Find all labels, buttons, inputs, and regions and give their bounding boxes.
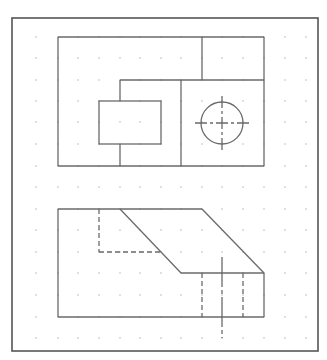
grid-dot xyxy=(35,79,37,81)
grid-dot xyxy=(35,36,37,38)
visible-edge-line xyxy=(202,209,264,273)
grid-dot xyxy=(305,100,307,102)
grid-dot xyxy=(98,337,100,339)
grid-dot xyxy=(284,337,286,339)
grid-dot xyxy=(201,229,203,231)
grid-dot xyxy=(77,272,79,274)
grid-dot xyxy=(119,272,121,274)
grid-dot xyxy=(77,143,79,145)
grid-dot xyxy=(139,294,141,296)
grid-dot xyxy=(180,57,182,59)
grid-dot xyxy=(35,251,37,253)
grid-dot xyxy=(305,251,307,253)
grid-dot xyxy=(35,143,37,145)
grid-dot xyxy=(305,316,307,318)
grid-dot xyxy=(35,186,37,188)
grid-dot xyxy=(139,57,141,59)
grid-dot xyxy=(305,229,307,231)
grid-dot xyxy=(284,143,286,145)
grid-dot xyxy=(35,316,37,318)
grid-dot xyxy=(305,186,307,188)
grid-dot xyxy=(160,57,162,59)
grid-dot xyxy=(305,272,307,274)
dot-grid xyxy=(35,36,307,339)
grid-dot xyxy=(35,208,37,210)
grid-dot xyxy=(242,143,244,145)
grid-dot xyxy=(35,100,37,102)
grid-dot xyxy=(77,337,79,339)
grid-dot xyxy=(139,272,141,274)
grid-dot xyxy=(221,294,223,296)
grid-dot xyxy=(242,294,244,296)
grid-dot xyxy=(305,143,307,145)
grid-dot xyxy=(160,294,162,296)
grid-dot xyxy=(221,57,223,59)
grid-dot xyxy=(284,229,286,231)
grid-dot xyxy=(305,121,307,123)
grid-dot xyxy=(201,186,203,188)
grid-dot xyxy=(98,294,100,296)
grid-dot xyxy=(284,272,286,274)
grid-dot xyxy=(263,229,265,231)
grid-dot xyxy=(98,57,100,59)
grid-dot xyxy=(35,294,37,296)
grid-dot xyxy=(98,186,100,188)
grid-dot xyxy=(160,337,162,339)
grid-dot xyxy=(57,186,59,188)
grid-dot xyxy=(263,208,265,210)
grid-dot xyxy=(77,57,79,59)
grid-dot xyxy=(98,79,100,81)
grid-dot xyxy=(221,208,223,210)
grid-dot xyxy=(284,294,286,296)
grid-dot xyxy=(77,79,79,81)
grid-dot xyxy=(160,272,162,274)
grid-dot xyxy=(305,337,307,339)
grid-dot xyxy=(139,121,141,123)
grid-dot xyxy=(98,272,100,274)
technical-drawing xyxy=(0,0,327,360)
grid-dot xyxy=(77,251,79,253)
grid-dot xyxy=(284,57,286,59)
grid-dot xyxy=(35,57,37,59)
grid-dot xyxy=(221,251,223,253)
grid-dot xyxy=(180,294,182,296)
grid-dot xyxy=(242,186,244,188)
grid-dot xyxy=(119,337,121,339)
grid-dot xyxy=(35,229,37,231)
grid-dot xyxy=(201,100,203,102)
grid-dot xyxy=(263,186,265,188)
grid-dot xyxy=(284,36,286,38)
grid-dot xyxy=(284,208,286,210)
grid-dot xyxy=(180,337,182,339)
grid-dot xyxy=(119,121,121,123)
grid-dot xyxy=(284,251,286,253)
grid-dot xyxy=(305,208,307,210)
grid-dot xyxy=(139,337,141,339)
grid-dot xyxy=(284,186,286,188)
grid-dot xyxy=(284,100,286,102)
grid-dot xyxy=(284,79,286,81)
grid-dot xyxy=(35,121,37,123)
grid-dot xyxy=(119,294,121,296)
grid-dot xyxy=(77,186,79,188)
visible-edge-line xyxy=(120,209,181,273)
grid-dot xyxy=(77,294,79,296)
top-view xyxy=(58,37,264,166)
grid-dot xyxy=(284,316,286,318)
grid-dot xyxy=(35,272,37,274)
grid-dot xyxy=(77,229,79,231)
grid-dot xyxy=(305,57,307,59)
grid-dot xyxy=(160,229,162,231)
boss-outline xyxy=(99,101,161,144)
grid-dot xyxy=(201,251,203,253)
grid-dot xyxy=(77,121,79,123)
grid-dot xyxy=(57,337,59,339)
grid-dot xyxy=(305,79,307,81)
grid-dot xyxy=(305,36,307,38)
grid-dot xyxy=(201,143,203,145)
grid-dot xyxy=(284,121,286,123)
grid-dot xyxy=(139,186,141,188)
grid-dot xyxy=(77,100,79,102)
grid-dot xyxy=(35,165,37,167)
grid-dot xyxy=(284,165,286,167)
